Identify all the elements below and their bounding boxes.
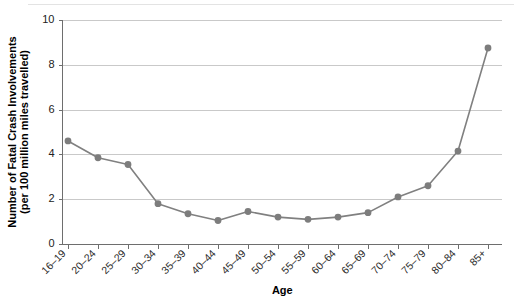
y-axis-ticks: 0246810 — [42, 13, 62, 249]
y-gridlines — [63, 21, 503, 200]
y-axis-title-line2: (per 100 million miles travelled) — [18, 50, 30, 214]
x-tick-label: 35–39 — [159, 247, 188, 276]
y-axis-title-line1: Number of Fatal Crash Involvements — [6, 36, 18, 227]
x-tick-label: 40–44 — [189, 247, 218, 276]
x-tick-label: 85+ — [467, 247, 488, 268]
y-tick-label: 0 — [48, 237, 54, 249]
data-point: 35–39: 1.35 — [185, 210, 192, 217]
x-tick-label: 25–29 — [99, 247, 128, 276]
x-tick-label: 50–54 — [249, 247, 278, 276]
data-point: 16–19: 4.6 — [65, 138, 72, 145]
x-tick-label: 70–74 — [369, 247, 398, 276]
data-point: 25–29: 3.55 — [125, 161, 132, 168]
x-axis-ticks: 16–1920–2425–2930–3435–3940–4445–4950–54… — [39, 244, 489, 276]
x-tick-label: 65–69 — [339, 247, 368, 276]
data-point: 20–24: 3.85 — [95, 154, 102, 161]
data-point: 70–74: 2.1 — [395, 194, 402, 201]
fatal-crash-rate-points: 16–19: 4.620–24: 3.8525–29: 3.5530–34: 1… — [65, 45, 492, 224]
data-point: 45–49: 1.45 — [245, 208, 252, 215]
x-axis-title: Age — [272, 284, 293, 296]
x-tick-label: 30–34 — [129, 247, 158, 276]
x-tick-label: 20–24 — [69, 247, 98, 276]
chart-canvas: 0246810 16–1920–2425–2930–3435–3940–4445… — [0, 0, 514, 308]
x-tick-label: 60–64 — [309, 247, 338, 276]
x-tick-label: 55–59 — [279, 247, 308, 276]
y-tick-label: 6 — [48, 103, 54, 115]
x-tick-label: 80–84 — [429, 247, 458, 276]
data-point: 50–54: 1.2 — [275, 214, 282, 221]
y-tick-label: 10 — [42, 13, 54, 25]
data-point: 55–59: 1.1 — [305, 216, 312, 223]
y-tick-label: 2 — [48, 192, 54, 204]
data-point: 30–34: 1.8 — [155, 200, 162, 207]
data-point: 75–79: 2.6 — [425, 182, 432, 189]
x-tick-label: 45–49 — [219, 247, 248, 276]
fatal-crash-rate-line — [68, 48, 488, 220]
data-point: 85+: 8.75 — [485, 45, 492, 52]
data-point: 60–64: 1.2 — [335, 214, 342, 221]
fatal-crash-rate-by-age-chart: 0246810 16–1920–2425–2930–3435–3940–4445… — [0, 0, 514, 308]
data-point: 65–69: 1.4 — [365, 209, 372, 216]
data-point: 80–84: 4.15 — [455, 148, 462, 155]
y-tick-label: 4 — [48, 147, 54, 159]
x-tick-label: 16–19 — [39, 247, 68, 276]
data-point: 40–44: 1.05 — [215, 217, 222, 224]
y-tick-label: 8 — [48, 58, 54, 70]
x-tick-label: 75–79 — [399, 247, 428, 276]
